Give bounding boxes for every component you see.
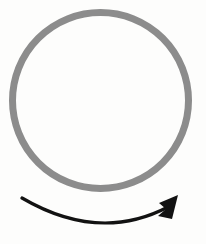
rotation-diagram-svg xyxy=(0,0,206,244)
diagram-canvas: A gray circular outline with a black cur… xyxy=(0,0,206,244)
canvas-background xyxy=(0,0,206,244)
